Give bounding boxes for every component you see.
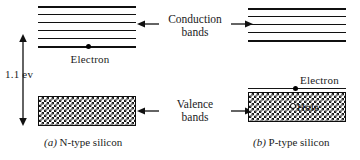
left-panel-caption: (a) N-type silicon: [44, 136, 122, 149]
left-caption-text: N-type silicon: [60, 136, 123, 148]
left-electron-label: Electron: [60, 53, 120, 65]
conduction-level-2: [38, 14, 136, 15]
conduction-level-3: [38, 22, 136, 23]
left-electron-dot: [86, 44, 91, 49]
right-panel-caption: (b) P-type silicon: [253, 136, 329, 149]
conduction-bands-label-line2: bands: [160, 26, 230, 39]
valence-left-arrow: [137, 106, 159, 116]
conduction-bands-label: Conduction bands: [160, 13, 230, 39]
band-gap-label: 1.1 ev: [5, 68, 47, 80]
hole-marker: [290, 103, 296, 109]
conduction-bands-label-line1: Conduction: [160, 13, 230, 26]
conduction-level-4: [248, 32, 346, 33]
conduction-level-1: [38, 6, 136, 8]
hole-label: Hole: [297, 101, 319, 113]
band-gap-arrow: [16, 34, 30, 126]
left-caption-index: (a): [44, 136, 57, 148]
right-caption-index: (b): [253, 136, 266, 148]
conduction-level-5: [248, 40, 346, 42]
valence-bands-label: Valence bands: [160, 98, 230, 124]
conduction-level-4: [38, 30, 136, 31]
valence-bands-label-line2: bands: [160, 111, 230, 124]
conduction-level-5: [38, 38, 136, 39]
left-valence-band: [38, 96, 136, 126]
right-conduction-band: [248, 8, 346, 44]
conduction-level-3: [248, 24, 346, 25]
conduction-left-arrow: [137, 19, 159, 29]
right-electron-dot: [293, 86, 298, 91]
conduction-level-2: [248, 16, 346, 17]
valence-bands-label-line1: Valence: [160, 98, 230, 111]
right-caption-text: P-type silicon: [269, 136, 330, 148]
energy-band-diagram: Electron 1.1 ev (a) N-type silicon Condu…: [0, 0, 360, 160]
conduction-level-1: [248, 8, 346, 10]
right-electron-label: Electron: [300, 74, 339, 86]
